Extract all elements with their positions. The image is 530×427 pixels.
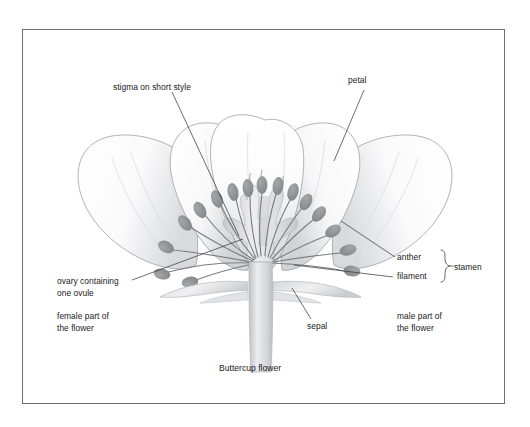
label-filament: filament: [397, 271, 427, 283]
anther: [257, 176, 268, 194]
label-sepal: sepal: [307, 321, 327, 333]
label-female-part-of-the-flower: female part of the flower: [57, 311, 109, 334]
label-male-part-of-the-flower: male part of the flower: [397, 311, 442, 334]
label-stamen: stamen: [454, 262, 482, 274]
label-anther: anther: [397, 252, 421, 264]
filament: [196, 264, 252, 280]
label-petal: petal: [348, 75, 366, 87]
diagram-page: stigma on short style petal anther filam…: [0, 0, 530, 427]
stamen-brace: [441, 250, 453, 282]
flower-stem: [249, 262, 273, 372]
figure-caption: Buttercup flower: [219, 363, 281, 373]
label-ovary-containing-one-ovule: ovary containing one ovule: [57, 276, 119, 299]
label-stigma-on-short-style: stigma on short style: [113, 82, 191, 94]
